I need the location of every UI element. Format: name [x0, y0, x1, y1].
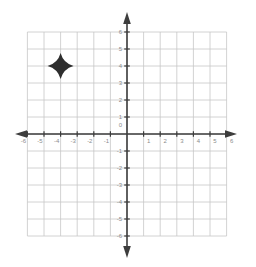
y-tick-label: -1	[117, 148, 123, 154]
y-axis-bottom-arrow	[123, 246, 131, 258]
y-axis-top-arrow	[123, 12, 131, 24]
y-tick-label: -5	[117, 216, 123, 222]
x-tick-label: -2	[87, 138, 93, 144]
x-tick-label: 5	[213, 138, 217, 144]
y-tick-label: -4	[117, 199, 123, 205]
x-axis-left-arrow	[15, 130, 27, 138]
worksheet-page: -6-5-4-3-2-1123456-6-5-4-3-2-11234560	[0, 0, 256, 267]
x-tick-label: 2	[164, 138, 168, 144]
x-tick-label: -3	[71, 138, 77, 144]
coordinate-plane: -6-5-4-3-2-1123456-6-5-4-3-2-11234560	[0, 0, 256, 267]
y-tick-label: -2	[117, 165, 123, 171]
plotted-point-star	[48, 53, 74, 79]
y-tick-label: -6	[117, 233, 123, 239]
x-tick-label: 6	[230, 138, 234, 144]
x-tick-label: 4	[197, 138, 201, 144]
x-tick-label: -6	[21, 138, 27, 144]
x-tick-label: 1	[147, 138, 151, 144]
x-tick-label: 3	[180, 138, 184, 144]
x-tick-label: -5	[37, 138, 43, 144]
x-tick-label: -1	[104, 138, 110, 144]
x-tick-label: -4	[54, 138, 60, 144]
origin-label: 0	[119, 122, 123, 128]
y-tick-label: -3	[117, 182, 123, 188]
